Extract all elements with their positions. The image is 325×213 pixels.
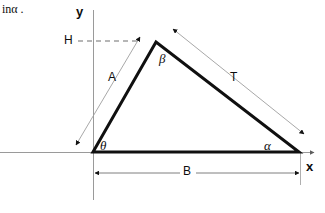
- side-t-label: T: [230, 71, 237, 83]
- angle-theta-label: θ: [100, 139, 106, 152]
- y-axis-label: y: [76, 5, 83, 18]
- height-label: H: [64, 34, 73, 46]
- triangle-shape: [93, 42, 299, 152]
- base-b-dimension-group: [94, 152, 301, 185]
- angle-alpha-label: α: [264, 139, 271, 152]
- side-t-leader-line: [173, 29, 304, 134]
- triangle-outline: [93, 42, 299, 152]
- angle-beta-label: β: [159, 52, 165, 65]
- base-b-label: B: [183, 165, 191, 177]
- axes-group: [0, 10, 314, 200]
- geometry-figure: [0, 0, 325, 213]
- diagram-canvas: inα . y x H A T B θ β α: [0, 0, 325, 213]
- side-t-dimension-group: [173, 29, 304, 134]
- fragment-text: inα .: [2, 3, 24, 15]
- x-axis-label: x: [306, 160, 313, 173]
- side-a-label: A: [108, 71, 116, 83]
